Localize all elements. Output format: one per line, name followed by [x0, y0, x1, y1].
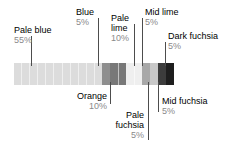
bar-unit — [22, 63, 30, 85]
callout-pale-lime-label-line2: lime — [111, 23, 129, 33]
bar-unit — [166, 63, 174, 85]
bar-unit — [79, 63, 87, 85]
bar-unit — [87, 63, 95, 85]
bar-unit — [158, 63, 166, 85]
callout-pale-lime: Pale lime 10% — [111, 13, 129, 43]
callout-dark-fuchsia-label: Dark fuchsia — [168, 31, 218, 41]
bar-unit — [54, 63, 62, 85]
bar-segment-pale-fuchsia[interactable] — [150, 63, 158, 85]
bar-segment-mid-fuchsia[interactable] — [158, 63, 166, 85]
callout-mid-lime: Mid lime 5% — [145, 7, 179, 27]
callout-mid-lime-label: Mid lime — [145, 7, 179, 17]
callout-dark-fuchsia: Dark fuchsia 5% — [168, 31, 218, 51]
callout-pale-fuchsia-percent: 5% — [100, 130, 144, 140]
leader-line-mid-fuchsia — [158, 82, 159, 112]
callout-pale-fuchsia-label-line1: Pale — [100, 110, 144, 120]
bar-segment-dark-fuchsia[interactable] — [166, 63, 174, 85]
callout-orange: Orange 10% — [62, 91, 107, 111]
callout-pale-lime-percent: 10% — [111, 33, 129, 43]
bar-unit — [119, 63, 127, 85]
bar-unit — [102, 63, 110, 85]
bar-unit — [46, 63, 54, 85]
callout-mid-fuchsia: Mid fuchsia 5% — [162, 96, 208, 116]
leader-line-mid-lime — [142, 18, 143, 66]
callout-blue: Blue 5% — [76, 7, 94, 27]
bar-segment-pale-blue[interactable] — [14, 63, 102, 85]
callout-pale-fuchsia-label-line2: fuchsia — [100, 120, 144, 130]
callout-blue-label: Blue — [76, 7, 94, 17]
leader-line-orange — [110, 82, 111, 104]
bar-segment-orange[interactable] — [110, 63, 126, 85]
callout-dark-fuchsia-percent: 5% — [168, 41, 218, 51]
bar-unit — [150, 63, 158, 85]
bar-segment-blue[interactable] — [102, 63, 110, 85]
leader-line-pale-lime — [134, 24, 135, 66]
callout-mid-fuchsia-percent: 5% — [162, 106, 208, 116]
leader-line-blue — [98, 18, 99, 66]
callout-pale-blue: Pale blue 55% — [14, 25, 52, 45]
callout-pale-blue-percent: 55% — [14, 35, 52, 45]
callout-pale-lime-label-line1: Pale — [111, 13, 129, 23]
bar-unit — [71, 63, 79, 85]
bar-segment-pale-lime[interactable] — [126, 63, 142, 85]
bar-unit — [135, 63, 143, 85]
bar-unit — [14, 63, 22, 85]
callout-mid-lime-percent: 5% — [145, 17, 179, 27]
callout-orange-label: Orange — [62, 91, 107, 101]
chart-canvas: Pale blue 55% Blue 5% Pale lime 10% Mid … — [0, 0, 233, 151]
leader-line-dark-fuchsia — [165, 42, 166, 66]
bar-unit — [126, 63, 135, 85]
callout-mid-fuchsia-label: Mid fuchsia — [162, 96, 208, 106]
bar-unit — [110, 63, 119, 85]
callout-pale-fuchsia: Pale fuchsia 5% — [100, 110, 144, 140]
bar-unit — [95, 63, 102, 85]
callout-blue-percent: 5% — [76, 17, 94, 27]
leader-line-pale-fuchsia — [148, 82, 149, 140]
callout-pale-blue-label: Pale blue — [14, 25, 52, 35]
bar-unit — [63, 63, 71, 85]
stacked-bar — [14, 63, 174, 85]
bar-unit — [38, 63, 46, 85]
bar-unit — [30, 63, 38, 85]
